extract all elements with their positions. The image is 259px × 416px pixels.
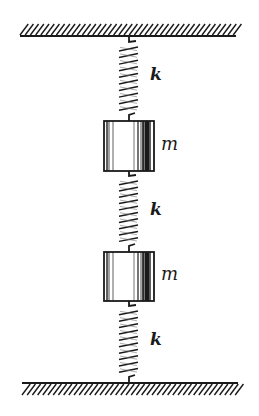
spring-3	[119, 301, 138, 383]
mass-1-label: m	[161, 135, 178, 153]
springs	[119, 37, 138, 383]
spring-2-label: k	[150, 201, 162, 218]
wall-bottom	[22, 383, 243, 395]
spring-hook-bottom	[129, 244, 135, 252]
spring-hook-bottom	[129, 113, 135, 121]
spring-1	[119, 37, 138, 121]
spring-hook-top	[129, 37, 136, 42]
mass-2	[104, 252, 154, 301]
wall-top	[20, 24, 241, 36]
masses	[104, 121, 154, 301]
mass-2-label: m	[161, 265, 178, 283]
spring-1-label: k	[150, 66, 162, 83]
spring-mass-diagram	[0, 0, 259, 416]
spring-3-label: k	[150, 331, 162, 348]
mass-1	[104, 121, 154, 171]
spring-hook-bottom	[129, 375, 135, 383]
spring-2	[119, 171, 138, 252]
